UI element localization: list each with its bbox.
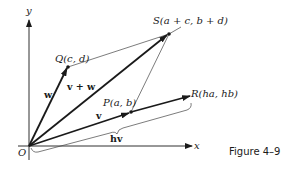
vector-addition-diagram: y x O Q(c, d) S(a + c, b + d) P(a, b) R(… (0, 0, 281, 171)
point-s (167, 32, 171, 36)
vector-w-label: w (43, 89, 53, 100)
parallelogram-side-p-s (131, 34, 169, 112)
vector-v-label: v (95, 110, 102, 121)
point-p-label: P(a, b) (102, 97, 136, 108)
vector-w (29, 68, 67, 146)
y-axis-label: y (25, 5, 32, 16)
hv-brace (31, 103, 191, 152)
s-tick-extension (169, 27, 181, 34)
vector-hv (131, 96, 190, 112)
x-axis-label: x (194, 140, 200, 151)
point-s-label: S(a + c, b + d) (153, 15, 228, 26)
point-r-label: R(ha, hb) (190, 88, 238, 99)
vector-hv-label: hv (110, 133, 123, 144)
figure-caption: Figure 4–9 (229, 146, 280, 157)
vector-sum-label: v + w (66, 81, 96, 92)
origin-label: O (18, 147, 26, 158)
point-q (66, 65, 70, 69)
point-p (129, 110, 133, 114)
point-q-label: Q(c, d) (55, 53, 89, 64)
